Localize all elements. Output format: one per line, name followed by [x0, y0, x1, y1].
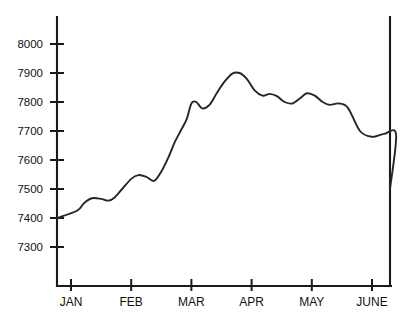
- y-tick-label: 7300: [17, 241, 43, 253]
- x-tick-label: APR: [239, 295, 264, 309]
- x-tick-labels: JANFEBMARAPRMAYJUNE: [60, 295, 388, 309]
- y-tick-label: 8000: [17, 38, 43, 50]
- y-tick-label: 7900: [17, 67, 43, 79]
- x-tick-label: JAN: [60, 295, 83, 309]
- data-series-line: [57, 72, 396, 218]
- y-tick-label: 7600: [17, 154, 43, 166]
- chart-canvas: 73007400750076007700780079008000 JANFEBM…: [0, 0, 408, 322]
- x-tick-label: MAR: [178, 295, 205, 309]
- x-tick-label: FEB: [120, 295, 143, 309]
- y-tick-label: 7400: [17, 212, 43, 224]
- y-tick-labels: 73007400750076007700780079008000: [17, 38, 43, 253]
- x-tick-label: MAY: [299, 295, 324, 309]
- y-tick-label: 7700: [17, 125, 43, 137]
- x-tick-label: JUNE: [356, 295, 387, 309]
- y-tick-label: 7800: [17, 96, 43, 108]
- y-tick-label: 7500: [17, 183, 43, 195]
- line-chart: 73007400750076007700780079008000 JANFEBM…: [0, 0, 408, 322]
